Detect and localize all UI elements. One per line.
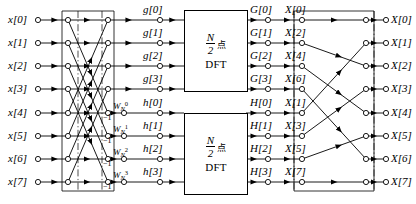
output-label-5: X[5] (391, 130, 412, 141)
dft-output-label-G0: G[0] (250, 4, 272, 15)
twiddle-label-1: WN1 (113, 124, 128, 135)
output-label-6: X[6] (391, 153, 412, 164)
dft-output-label-H1: H[1] (250, 120, 272, 131)
dft-output-label-G2: G[2] (250, 50, 272, 61)
relabeled-output-4: X[1] (285, 97, 306, 108)
dft-size-fraction: N 2 (206, 135, 215, 159)
dft-block-name: DFT (205, 58, 226, 70)
twiddle-label-2: WN2 (113, 147, 128, 158)
intermediate-label-g2: g[2] (143, 50, 163, 61)
dft-size-denominator: 2 (208, 44, 214, 56)
dft-block-lower: N 2 点 DFT (184, 113, 248, 195)
output-label-4: X[4] (391, 107, 412, 118)
output-label-2: X[2] (391, 60, 412, 71)
intermediate-label-g1: g[1] (143, 27, 163, 38)
intermediate-label-h0: h[0] (143, 97, 163, 108)
input-label-5: x[5] (8, 130, 27, 141)
input-label-3: x[3] (8, 83, 27, 94)
fft-flow-diagram: x[0] x[1] x[2] x[3] x[4] x[5] x[6] x[7] … (0, 0, 416, 204)
twiddle-base: W (113, 124, 121, 134)
relabeled-output-1: X[2] (285, 27, 306, 38)
twiddle-superscript: 3 (125, 169, 128, 176)
twiddle-label-0: WN0 (113, 101, 128, 112)
output-label-1: X[1] (391, 37, 412, 48)
input-label-7: x[7] (8, 176, 27, 187)
minus-one-label-2: −1 (103, 160, 112, 168)
twiddle-superscript: 2 (125, 146, 128, 153)
twiddle-label-3: WN3 (113, 170, 128, 181)
twiddle-base: W (113, 101, 121, 111)
dft-size-denominator: 2 (208, 147, 214, 159)
relabeled-output-2: X[4] (285, 50, 306, 61)
minus-one-label-1: −1 (103, 137, 112, 145)
input-label-2: x[2] (8, 60, 27, 71)
dft-output-label-G1: G[1] (250, 27, 272, 38)
dft-output-label-H3: H[3] (250, 166, 272, 177)
dft-size-unit: 点 (217, 38, 226, 51)
output-label-3: X[3] (391, 83, 412, 94)
dft-output-label-G3: G[3] (250, 73, 272, 84)
intermediate-label-g0: g[0] (143, 4, 163, 15)
dft-size-numerator: N (206, 135, 215, 147)
intermediate-label-h2: h[2] (143, 143, 163, 154)
input-label-6: x[6] (8, 153, 27, 164)
relabeled-output-7: X[7] (285, 166, 306, 177)
twiddle-base: W (113, 147, 121, 157)
twiddle-superscript: 1 (125, 123, 128, 130)
relabeled-output-0: X[0] (285, 4, 306, 15)
input-label-4: x[4] (8, 107, 27, 118)
input-label-1: x[1] (8, 37, 27, 48)
dft-size-fraction: N 2 (206, 32, 215, 56)
dft-block-name: DFT (205, 161, 226, 173)
dft-size-numerator: N (206, 32, 215, 44)
dft-size-row: N 2 点 (206, 32, 226, 56)
dft-size-row: N 2 点 (206, 135, 226, 159)
minus-one-label-3: −1 (103, 183, 112, 191)
twiddle-superscript: 0 (125, 100, 128, 107)
input-label-0: x[0] (8, 14, 27, 25)
intermediate-label-h3: h[3] (143, 166, 163, 177)
relabeled-output-5: X[3] (285, 120, 306, 131)
intermediate-label-h1: h[1] (143, 120, 163, 131)
dft-output-label-H0: H[0] (250, 97, 272, 108)
intermediate-label-g3: g[3] (143, 73, 163, 84)
relabeled-output-6: X[5] (285, 143, 306, 154)
dft-block-upper: N 2 点 DFT (184, 10, 248, 92)
minus-one-label-0: −1 (103, 114, 112, 122)
twiddle-base: W (113, 170, 121, 180)
dft-output-label-H2: H[2] (250, 143, 272, 154)
relabeled-output-3: X[6] (285, 73, 306, 84)
dft-size-unit: 点 (217, 141, 226, 154)
output-label-7: X[7] (391, 176, 412, 187)
output-label-0: X[0] (391, 14, 412, 25)
